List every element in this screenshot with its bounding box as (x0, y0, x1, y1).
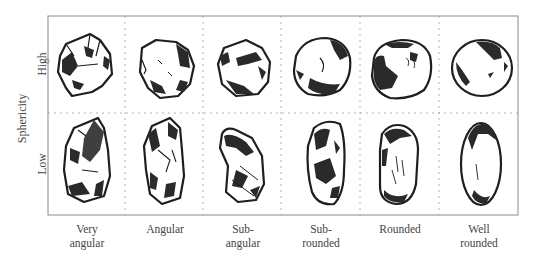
column-label-rounded: Rounded (361, 222, 439, 236)
grain-angular-low-sphericity-icon (144, 118, 184, 204)
grain-very-angular-high-sphericity-icon (58, 34, 112, 96)
column-label-very-angular: Very angular (48, 222, 126, 250)
grain-sub-angular-low-sphericity-icon (220, 129, 264, 202)
grain-grid (0, 0, 533, 255)
column-label-sub-rounded: Sub- rounded (282, 222, 360, 250)
column-label-well-rounded: Well rounded (440, 222, 518, 250)
grid-dividers (48, 16, 518, 215)
grain-sub-rounded-low-sphericity-icon (308, 122, 345, 205)
grain-well-rounded-low-sphericity-icon (461, 123, 501, 205)
roundness-sphericity-chart: Sphericity High Low (0, 0, 533, 255)
grid-frame (48, 16, 518, 215)
grain-angular-high-sphericity-icon (140, 40, 194, 98)
grain-rounded-low-sphericity-icon (380, 125, 418, 204)
grain-sub-angular-high-sphericity-icon (218, 40, 270, 96)
column-label-sub-angular: Sub- angular (204, 222, 282, 250)
grain-sub-rounded-high-sphericity-icon (294, 38, 350, 95)
column-label-angular: Angular (126, 222, 204, 236)
grain-very-angular-low-sphericity-icon (64, 118, 110, 202)
grain-rounded-high-sphericity-icon (372, 40, 431, 98)
grain-well-rounded-high-sphericity-icon (452, 40, 512, 96)
